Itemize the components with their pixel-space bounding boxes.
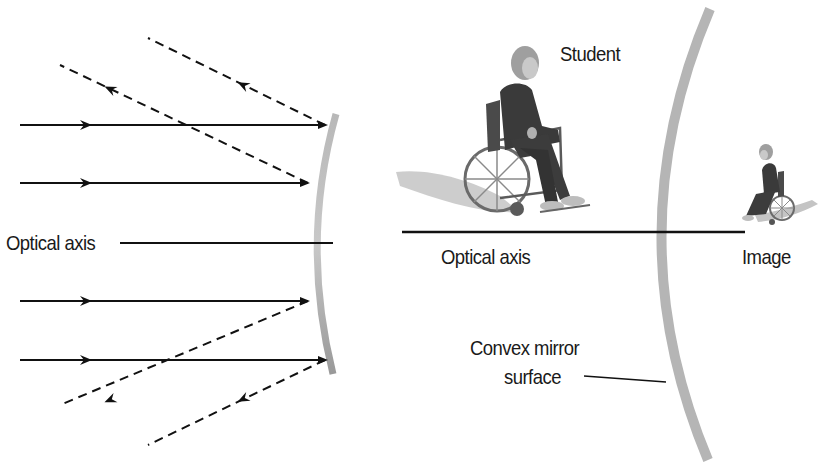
student-figure (396, 46, 590, 216)
reflected-ray-1 (148, 38, 325, 125)
image-figure (742, 144, 818, 225)
reflected-ray-3 (60, 301, 308, 405)
arrow-left-icon (103, 393, 118, 407)
student-face (522, 57, 538, 79)
image-torso (762, 163, 780, 194)
right-optical-axis-label: Optical axis (441, 246, 530, 267)
image-label: Image (742, 246, 791, 267)
mirror-label-leader (584, 376, 666, 382)
reflected-ray-4 (148, 360, 325, 445)
arrow-left-icon (102, 82, 117, 96)
left-optical-axis-label: Optical axis (6, 232, 95, 253)
student-shadow (396, 171, 520, 212)
convex-mirror-surface (661, 9, 710, 460)
mirror-label-line2: surface (504, 366, 561, 387)
student-label: Student (560, 43, 620, 64)
arrow-left-icon (235, 78, 250, 92)
reflected-rays (60, 38, 325, 445)
arrow-left-icon (235, 392, 250, 406)
right-panel (396, 9, 818, 460)
diagram-canvas (0, 0, 829, 471)
mirror-label-line1: Convex mirror (470, 337, 579, 358)
